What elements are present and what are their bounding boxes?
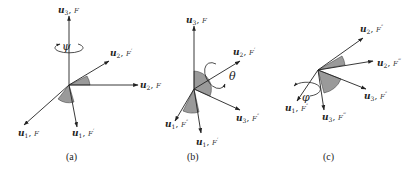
axis-u1-F: [24, 85, 69, 125]
caption-b: (b): [187, 151, 199, 163]
angle-wedge-lower: [318, 70, 341, 93]
axis-u3-Fdoubleprime: [194, 89, 240, 110]
label-u3-F: u3, F: [186, 15, 208, 26]
label-u3-Fdoubleprime: u3, F″: [364, 90, 388, 102]
caption-a: (a): [66, 151, 77, 163]
label-u3-Ftripleprime: u3, F‴: [322, 111, 346, 123]
panel-b: θ u3, F u2, F′ u3, F″ u1, F″ u1, F′ (b): [165, 15, 260, 163]
label-u2-Fprime: u2, F′: [233, 46, 256, 58]
angle-wedge-lower: [183, 89, 199, 113]
angle-label-theta: θ: [229, 70, 236, 83]
euler-rotation-diagram: ψ u3, F u2, F′ u2, F u1, F u1, F′ (a) θ …: [0, 0, 414, 171]
label-u2-F: u2, F: [140, 80, 162, 91]
label-u1-F: u1, F: [18, 128, 40, 139]
caption-c: (c): [323, 151, 334, 163]
label-u1-Fprime: u1, F′: [72, 127, 95, 139]
label-u2-Fprime: u2, F′: [110, 47, 133, 59]
label-u2-Ftripleprime: u2, F‴: [377, 57, 401, 69]
panel-a: ψ u3, F u2, F′ u2, F u1, F u1, F′ (a): [18, 5, 162, 163]
label-u1-Fprime: u1, F′: [196, 136, 219, 148]
label-u2-Fdoubleprime: u2, F″: [360, 23, 384, 35]
angle-wedge-upper: [69, 76, 90, 85]
axis-u1-Fprime: [69, 85, 77, 127]
panel-c: φ u2, F″ u2, F‴ u3, F″ u1, F″ u3, F‴ (c): [285, 23, 401, 163]
label-u3-F: u3, F: [58, 5, 80, 16]
label-u1-Fdoubleprime: u1, F″: [285, 102, 309, 114]
angle-label-psi: ψ: [62, 40, 71, 53]
label-u1-Fdoubleprime: u1, F″: [165, 118, 189, 130]
label-u3-Fdoubleprime: u3, F″: [236, 112, 260, 124]
